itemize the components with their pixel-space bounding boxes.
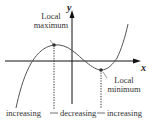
x-axis-label: x (141, 62, 146, 73)
interval-label-2: decreasing (60, 109, 96, 118)
local-max-label: Local maximum (31, 12, 71, 30)
local-min-point (99, 68, 103, 72)
max-pointer (50, 40, 53, 44)
interval-label-1: increasing (6, 109, 41, 118)
interval-label-3: increasing (107, 109, 142, 118)
graph-canvas (0, 0, 155, 124)
local-min-label: Local minimum (104, 76, 144, 94)
x-axis-arrow-icon (133, 59, 141, 64)
